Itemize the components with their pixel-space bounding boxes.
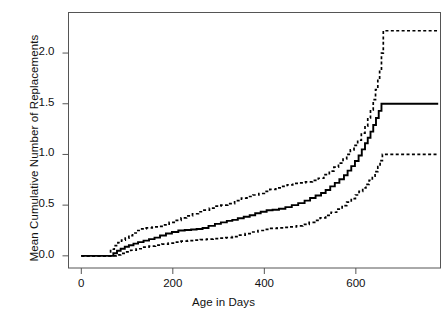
chart-series-group [81,31,438,256]
x-axis-ticks [81,268,356,274]
x-axis-title: Age in Days [0,296,447,308]
y-axis-title-wrapper: Mean Cumulative Number of Replacements [24,0,40,298]
y-axis-ticks [63,53,69,256]
chart-figure: 0200400600 0.00.51.01.52.0 Age in Days M… [0,0,447,321]
plot-border [69,13,441,269]
plot-box [69,13,441,269]
x-tick-label: 600 [326,277,386,289]
chart-series-line-2 [81,154,438,255]
x-tick-label: 0 [51,277,111,289]
y-axis-title: Mean Cumulative Number of Replacements [28,35,40,262]
chart-plot-area [0,0,447,321]
x-tick-label: 200 [143,277,203,289]
x-tick-label: 400 [234,277,294,289]
chart-series-line-0 [81,31,438,256]
